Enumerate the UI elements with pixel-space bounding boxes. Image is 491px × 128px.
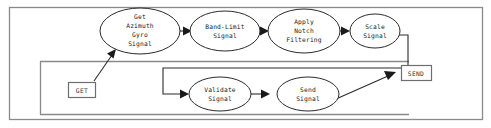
validate-signal-label-line-2: Signal	[208, 95, 232, 103]
get-azimuth-gyro-signal-label-line-4: Signal	[128, 40, 152, 48]
apply-notch-filtering-node[interactable]: Apply Notch Filtering	[268, 9, 340, 53]
get-azimuth-gyro-signal-label-line-2: Azimuth	[126, 22, 154, 29]
edge-notch-to-scale	[340, 27, 350, 36]
scale-signal-label-line-2: Signal	[363, 32, 387, 40]
flowchart-canvas: Get Azimuth Gyro Signal Band-Limit Signa…	[0, 0, 491, 128]
get-azimuth-gyro-signal-label-line-1: Get	[134, 13, 146, 20]
get-terminal-box[interactable]: GET	[69, 83, 96, 98]
send-terminal-box[interactable]: SEND	[402, 66, 432, 81]
apply-notch-filtering-label-line-2: Notch	[294, 27, 314, 34]
band-limit-signal-label-line-2: Signal	[213, 32, 237, 40]
send-terminal-label: SEND	[408, 70, 424, 77]
scale-signal-node[interactable]: Scale Signal	[350, 14, 400, 48]
send-signal-label-line-1: Send	[300, 86, 316, 93]
scale-signal-label-line-1: Scale	[365, 23, 385, 30]
edge-send-to-sendterminal	[336, 71, 396, 99]
send-signal-node[interactable]: Send Signal	[277, 77, 339, 111]
get-azimuth-gyro-signal-label-line-3: Gyro	[132, 31, 148, 39]
apply-notch-filtering-label-line-1: Apply	[294, 18, 314, 26]
flowchart-diagram: Get Azimuth Gyro Signal Band-Limit Signa…	[0, 0, 491, 128]
validate-signal-label-line-1: Validate	[204, 86, 236, 93]
band-limit-signal-node[interactable]: Band-Limit Signal	[190, 11, 260, 51]
apply-notch-filtering-label-line-3: Filtering	[286, 36, 322, 44]
get-terminal-label: GET	[76, 87, 88, 94]
band-limit-signal-label-line-1: Band-Limit	[205, 23, 244, 30]
send-signal-label-line-2: Signal	[296, 95, 320, 103]
edge-validate-to-send	[251, 90, 270, 99]
validate-signal-node[interactable]: Validate Signal	[189, 77, 251, 111]
edge-get-to-azimuth	[94, 49, 116, 81]
get-azimuth-gyro-signal-node[interactable]: Get Azimuth Gyro Signal	[100, 8, 180, 54]
